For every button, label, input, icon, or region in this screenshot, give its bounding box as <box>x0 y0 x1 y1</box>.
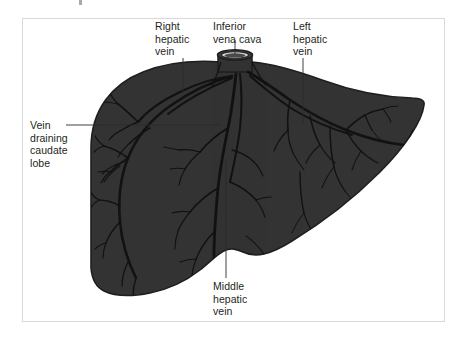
label-right-hepatic-vein: Right hepatic vein <box>155 20 189 58</box>
label-vein-draining-caudate-lobe: Vein draining caudate lobe <box>30 119 68 169</box>
label-middle-hepatic-vein: Middle hepatic vein <box>213 280 247 318</box>
label-left-hepatic-vein: Left hepatic vein <box>293 20 327 58</box>
figure-root: Right hepatic vein Inferior vena cava Le… <box>0 0 465 337</box>
label-inferior-vena-cava: Inferior vena cava <box>213 20 261 45</box>
liver-silhouette <box>91 61 424 295</box>
